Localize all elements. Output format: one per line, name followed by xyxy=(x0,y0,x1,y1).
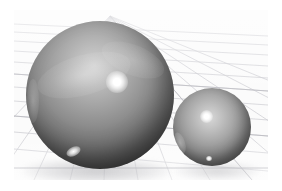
render-viewport xyxy=(0,0,282,191)
bounce-glint-large-sphere xyxy=(65,144,82,159)
specular-highlight-large-sphere xyxy=(106,71,128,93)
specular-highlight-small-sphere xyxy=(200,110,213,123)
sphere-large xyxy=(26,21,174,169)
bounce-glint-small-sphere xyxy=(206,156,212,161)
sphere-small xyxy=(173,88,251,166)
render-canvas xyxy=(14,10,268,180)
